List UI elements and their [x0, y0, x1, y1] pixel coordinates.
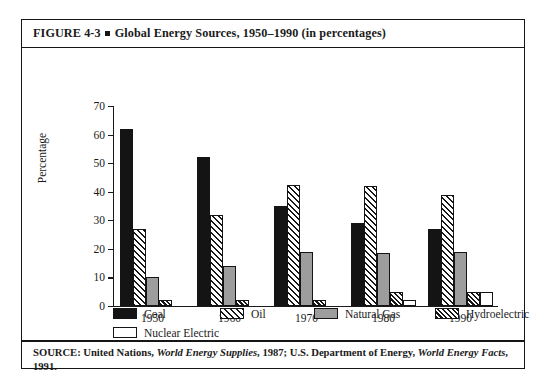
- bar-group-1950: [120, 106, 186, 306]
- bar-1970-oil[interactable]: [287, 185, 300, 306]
- legend-item-hydroelectric[interactable]: Hydroelectric: [435, 308, 529, 320]
- bar-1990-coal[interactable]: [428, 229, 441, 306]
- y-axis-tick-label: 60: [94, 129, 106, 141]
- legend-item-nuclear-electric[interactable]: Nuclear Electric: [113, 327, 219, 339]
- legend-item-label: Hydroelectric: [466, 308, 529, 320]
- figure-title-text: Global Energy Sources, 1950–1990 (in per…: [115, 26, 386, 40]
- y-axis-tick-label: 20: [94, 243, 106, 255]
- bar-group-1970: [274, 106, 340, 306]
- square-bullet-icon: [105, 31, 110, 36]
- legend-item-label: Coal: [144, 308, 166, 320]
- chart-legend: CoalOilNatural GasHydroelectric Nuclear …: [113, 304, 513, 342]
- legend-item-oil[interactable]: Oil: [220, 308, 266, 320]
- page-title: FIGURE 4-3Global Energy Sources, 1950–19…: [33, 26, 386, 41]
- bar-1970-coal[interactable]: [274, 206, 287, 306]
- y-axis-tick-label: 10: [94, 271, 106, 283]
- source-divider: [22, 340, 524, 342]
- figure-label: FIGURE 4-3: [33, 26, 101, 40]
- figure-title-bar: FIGURE 4-3Global Energy Sources, 1950–19…: [22, 20, 524, 48]
- source-mid: , 1987; U.S. Department of Energy,: [257, 347, 415, 358]
- legend-item-natural-gas[interactable]: Natural Gas: [314, 308, 400, 320]
- bar-1990-natural-gas[interactable]: [454, 252, 467, 306]
- bar-1980-oil[interactable]: [364, 186, 377, 306]
- bar-1960-natural-gas[interactable]: [223, 266, 236, 306]
- y-axis-title: Percentage: [36, 113, 48, 203]
- bar-group-1980: [351, 106, 417, 306]
- bar-1980-coal[interactable]: [351, 223, 364, 306]
- legend-swatch-icon: [113, 308, 137, 319]
- legend-swatch-icon: [220, 308, 244, 319]
- bar-1950-natural-gas[interactable]: [146, 277, 159, 306]
- bar-1990-oil[interactable]: [441, 195, 454, 306]
- legend-item-coal[interactable]: Coal: [113, 308, 166, 320]
- plot-area: 010203040506070 19501960197019801990: [113, 106, 498, 306]
- source-work-2: World Energy Facts: [418, 347, 506, 358]
- legend-item-label: Oil: [251, 308, 266, 320]
- source-prefix: SOURCE: United Nations,: [33, 347, 154, 358]
- bar-1950-oil[interactable]: [133, 229, 146, 306]
- legend-item-label: Nuclear Electric: [144, 327, 219, 339]
- y-axis-tick-label: 40: [94, 186, 106, 198]
- figure-body: Percentage 010203040506070 1950196019701…: [22, 48, 524, 340]
- bar-1980-natural-gas[interactable]: [377, 253, 390, 306]
- legend-swatch-icon: [435, 308, 459, 319]
- bar-group-1960: [197, 106, 263, 306]
- legend-swatch-icon: [113, 327, 137, 338]
- legend-row: CoalOilNatural GasHydroelectric: [113, 304, 513, 323]
- bar-1960-oil[interactable]: [210, 215, 223, 306]
- y-axis-tick-label: 30: [94, 214, 106, 226]
- y-axis-tick-label: 70: [94, 100, 106, 112]
- bar-1970-natural-gas[interactable]: [300, 252, 313, 306]
- bars-layer: [113, 106, 498, 306]
- chart-area: Percentage 010203040506070 1950196019701…: [22, 48, 526, 300]
- source-work-1: World Energy Supplies: [157, 347, 257, 358]
- y-axis-tick-label: 0: [99, 300, 105, 312]
- legend-item-label: Natural Gas: [345, 308, 400, 320]
- bar-group-1990: [428, 106, 494, 306]
- bar-1950-coal[interactable]: [120, 129, 133, 306]
- bar-1960-coal[interactable]: [197, 157, 210, 306]
- legend-swatch-icon: [314, 308, 338, 319]
- source-note: SOURCE: United Nations, World Energy Sup…: [33, 346, 512, 373]
- figure-frame: FIGURE 4-3Global Energy Sources, 1950–19…: [21, 19, 525, 369]
- y-axis-tick-label: 50: [94, 157, 106, 169]
